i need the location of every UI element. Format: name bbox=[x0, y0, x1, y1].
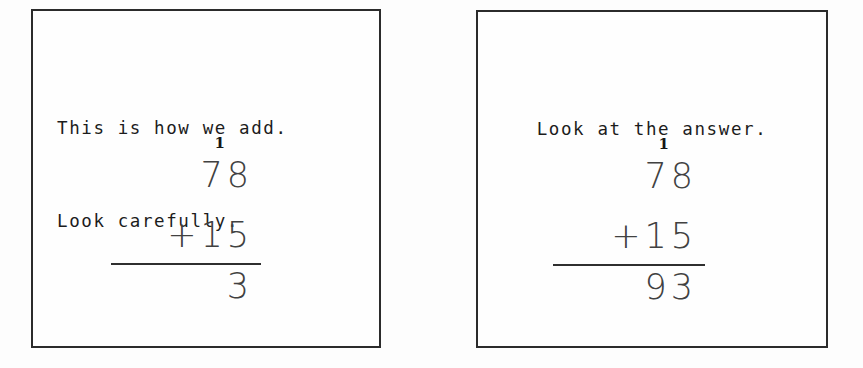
panel-left-addend-bottom: +15 bbox=[111, 213, 261, 257]
panel-right-addend-bottom: +15 bbox=[553, 214, 705, 258]
panel-left-carry-digit: 1 bbox=[111, 133, 261, 153]
panel-left-result: 3 bbox=[111, 265, 261, 307]
panel-right-addition-problem: 1 78 +15 93 bbox=[553, 134, 705, 308]
panel-right-result: 93 bbox=[553, 266, 705, 308]
panel-right-carry-digit: 1 bbox=[553, 134, 705, 154]
panel-right-addend-top: 78 bbox=[553, 154, 705, 198]
instruction-panel-right: Look at the answer. 1 78 +15 93 bbox=[476, 10, 828, 348]
panel-left-addend-top: 78 bbox=[111, 153, 261, 197]
panel-left-addition-problem: 1 78 +15 3 bbox=[111, 133, 261, 307]
instruction-panel-left: This is how we add. Look carefully. 1 78… bbox=[31, 9, 381, 348]
